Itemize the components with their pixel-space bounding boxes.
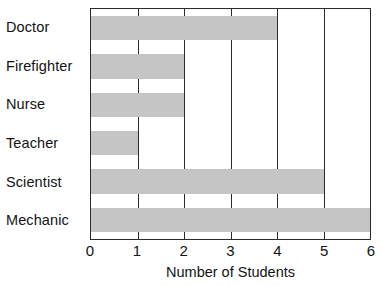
category-label-nurse: Nurse (0, 85, 86, 124)
x-tick-label-0: 0 (86, 243, 94, 258)
x-tick-label-6: 6 (367, 243, 375, 258)
bar-firefighter (91, 54, 184, 79)
category-axis-labels: Doctor Firefighter Nurse Teacher Scienti… (0, 8, 86, 240)
category-label-teacher: Teacher (0, 124, 86, 163)
bar-row (91, 47, 370, 85)
category-label-text: Doctor (6, 20, 49, 35)
category-label-text: Firefighter (6, 59, 72, 74)
bar-row (91, 9, 370, 47)
bar-row (91, 201, 370, 239)
category-label-text: Mechanic (6, 213, 69, 228)
bar-teacher (91, 131, 138, 156)
bar-nurse (91, 93, 184, 118)
bar-doctor (91, 16, 277, 41)
category-label-scientist: Scientist (0, 163, 86, 202)
category-label-firefighter: Firefighter (0, 47, 86, 86)
bar-row (91, 124, 370, 162)
x-axis-title: Number of Students (90, 265, 371, 280)
category-label-mechanic: Mechanic (0, 201, 86, 240)
category-label-text: Scientist (6, 175, 62, 190)
category-label-doctor: Doctor (0, 8, 86, 47)
category-label-text: Nurse (6, 97, 45, 112)
x-axis-tick-labels: 0123456 (90, 243, 371, 263)
bar-chart-figure: Doctor Firefighter Nurse Teacher Scienti… (0, 0, 383, 286)
x-tick-label-4: 4 (273, 243, 281, 258)
bar-series (91, 9, 370, 239)
bar-mechanic (91, 208, 370, 233)
x-tick-label-1: 1 (133, 243, 141, 258)
bar-row (91, 162, 370, 200)
plot-area (90, 8, 371, 240)
bar-row (91, 86, 370, 124)
x-tick-label-2: 2 (179, 243, 187, 258)
category-label-text: Teacher (6, 136, 58, 151)
x-tick-label-5: 5 (320, 243, 328, 258)
x-tick-label-3: 3 (226, 243, 234, 258)
bar-scientist (91, 169, 324, 194)
